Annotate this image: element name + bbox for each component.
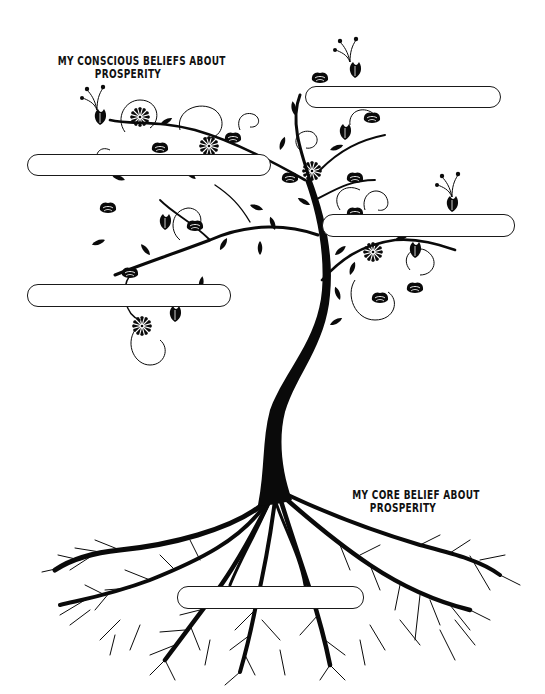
conscious-heading-line2: PROSPERITY (58, 68, 198, 81)
conscious-belief-box-upper-right[interactable] (305, 86, 501, 108)
core-belief-box-roots[interactable] (177, 586, 364, 609)
core-heading-line2: PROSPERITY (352, 502, 453, 515)
conscious-belief-box-middle-right[interactable] (322, 214, 515, 237)
conscious-beliefs-heading: MY CONSCIOUS BELIEFS ABOUT PROSPERITY (58, 55, 198, 81)
core-belief-heading: MY CORE BELIEF ABOUT PROSPERITY (352, 489, 453, 515)
conscious-belief-box-middle-left[interactable] (27, 284, 231, 307)
conscious-belief-box-upper-left[interactable] (27, 154, 271, 176)
